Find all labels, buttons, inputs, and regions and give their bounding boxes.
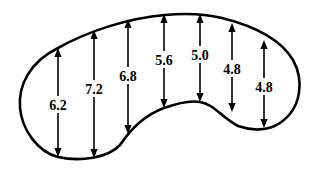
kidney-diagram: 6.27.26.85.65.04.84.8 <box>0 0 314 175</box>
arrowhead-up-icon <box>260 40 267 49</box>
arrowhead-up-icon <box>228 23 235 32</box>
arrowhead-down-icon <box>260 119 267 128</box>
dimension-label-5: 5.0 <box>191 48 209 63</box>
dimension-label-4: 5.6 <box>155 53 173 68</box>
arrowhead-down-icon <box>228 103 235 112</box>
dimension-label-2: 7.2 <box>85 82 103 97</box>
dimension-label-6: 4.8 <box>223 62 241 77</box>
diagram-stage: 6.27.26.85.65.04.84.8 <box>0 0 314 175</box>
dimension-label-3: 6.8 <box>119 69 137 84</box>
dimension-label-7: 4.8 <box>255 80 273 95</box>
dimension-label-1: 6.2 <box>49 98 67 113</box>
